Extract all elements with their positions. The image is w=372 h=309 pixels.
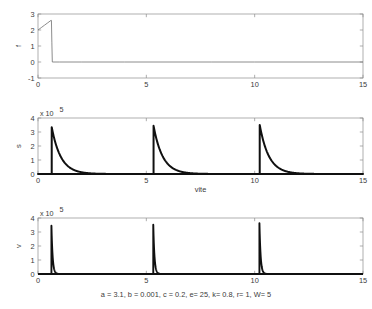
y-tick-label: 2 — [30, 242, 34, 251]
y-tick-label: -1 — [28, 74, 35, 83]
x-tick-label: 15 — [359, 176, 367, 185]
x-tick-label: 15 — [359, 80, 367, 89]
y-tick-label: 0 — [30, 58, 34, 67]
y-tick-label: 4 — [30, 214, 34, 223]
x-tick-label: 15 — [359, 276, 367, 285]
plot-panel-v: 05101501234vx 105a = 3.1, b = 0.001, c =… — [0, 200, 372, 309]
y-axis-label: s — [14, 144, 23, 148]
y-tick-label: 3 — [30, 10, 34, 19]
y-tick-label: 4 — [30, 114, 34, 123]
x-tick-label: 10 — [251, 176, 259, 185]
figure-caption: a = 3.1, b = 0.001, c = 0.2, e= 25, k= 0… — [101, 290, 271, 299]
x-tick-label: 10 — [251, 80, 259, 89]
x-tick-label: 5 — [144, 276, 148, 285]
x-tick-label: 5 — [144, 176, 148, 185]
y-axis-exponent: 5 — [60, 205, 64, 214]
y-axis-exponent: 5 — [60, 105, 64, 114]
data-spike-v-2 — [153, 225, 161, 274]
data-curve-f — [38, 20, 363, 62]
y-axis-label: v — [14, 244, 23, 248]
y-tick-label: 1 — [30, 256, 34, 265]
plot-panel-f: 051015-10123f — [0, 0, 372, 102]
y-tick-label: 1 — [30, 156, 34, 165]
y-tick-label: 2 — [30, 142, 34, 151]
x-tick-label: 0 — [36, 176, 40, 185]
y-axis-multiplier: x 10 — [40, 109, 54, 118]
y-tick-label: 1 — [30, 42, 34, 51]
plot-axes-s: 05101501234sx 105vite — [0, 100, 372, 200]
plot-panel-s: 05101501234sx 105vite — [0, 100, 372, 200]
y-tick-label: 3 — [30, 228, 34, 237]
plot-axes-v: 05101501234vx 105a = 3.1, b = 0.001, c =… — [0, 200, 372, 309]
data-spike-v-3 — [259, 223, 267, 274]
plot-axes-f: 051015-10123f — [0, 0, 372, 102]
data-curve-s — [38, 125, 363, 174]
x-tick-label: 0 — [36, 80, 40, 89]
y-axis-multiplier: x 10 — [40, 209, 54, 218]
x-tick-label: 5 — [144, 80, 148, 89]
figure-canvas: 051015-10123f 05101501234sx 105vite 0510… — [0, 0, 372, 309]
data-spike-v-1 — [51, 226, 59, 274]
y-tick-label: 2 — [30, 26, 34, 35]
y-tick-label: 0 — [30, 170, 34, 179]
y-axis-label: f — [14, 44, 23, 47]
y-tick-label: 3 — [30, 128, 34, 137]
x-tick-label: 0 — [36, 276, 40, 285]
y-tick-label: 0 — [30, 270, 34, 279]
x-axis-label: vite — [195, 185, 207, 194]
x-tick-label: 10 — [251, 276, 259, 285]
